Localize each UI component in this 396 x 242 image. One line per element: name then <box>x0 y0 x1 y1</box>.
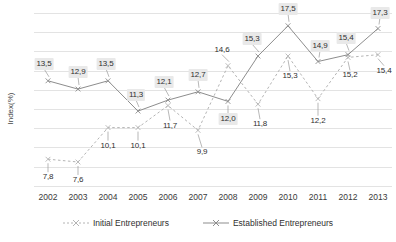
label-leader-line <box>198 134 202 147</box>
label-leader-line <box>252 44 259 52</box>
label-leader-line <box>379 18 380 25</box>
data-point-marker <box>136 109 141 114</box>
label-leader-line <box>258 108 260 119</box>
data-label: 12,1 <box>155 76 174 88</box>
label-leader-line <box>164 87 169 96</box>
data-point-marker <box>376 26 381 31</box>
x-axis-tick-2009: 2009 <box>249 192 268 202</box>
x-axis-tick-2003: 2003 <box>69 192 88 202</box>
label-leader-line <box>288 14 289 22</box>
line-chart: Index(%) 7,87,610,110,111,79,914,611,815… <box>0 0 396 242</box>
data-point-marker <box>286 54 291 59</box>
label-leader-line <box>222 55 229 62</box>
label-leader-line <box>168 110 170 121</box>
label-leader-line <box>78 77 79 85</box>
data-label: 17,3 <box>371 7 390 19</box>
data-point-marker <box>226 63 231 68</box>
label-leader-line <box>44 69 49 77</box>
data-label: 7,6 <box>73 175 84 185</box>
y-axis-title: Index(%) <box>6 77 15 141</box>
data-label: 17,5 <box>279 3 298 15</box>
data-point-marker <box>166 103 171 108</box>
label-leader-line <box>319 51 320 58</box>
label-leader-line <box>348 61 350 70</box>
legend-label-established-entrepreneurs: Established Entrepreneurs <box>233 218 333 228</box>
x-axis-tick-2012: 2012 <box>339 192 358 202</box>
x-axis-tick-2004: 2004 <box>99 192 118 202</box>
data-label: 11,3 <box>127 89 145 101</box>
legend-marker-dotted-icon <box>63 218 89 228</box>
data-label: 15,3 <box>243 33 262 45</box>
data-label: 15,2 <box>343 70 358 80</box>
label-leader-line <box>346 43 349 51</box>
data-label: 11,8 <box>253 119 267 129</box>
data-label: 12,2 <box>311 116 326 126</box>
x-axis-tick-2008: 2008 <box>219 192 238 202</box>
data-point-marker <box>136 125 141 130</box>
data-point-marker <box>226 99 231 104</box>
label-leader-line <box>106 69 109 77</box>
data-label: 12,9 <box>69 66 88 78</box>
data-label: 15,4 <box>337 32 356 44</box>
legend-item-established-entrepreneurs[interactable]: Established Entrepreneurs <box>203 218 333 228</box>
data-label: 15,3 <box>283 71 298 81</box>
chart-legend: Initial Entrepreneurs Established Entrep… <box>0 218 396 228</box>
data-point-marker <box>256 54 261 59</box>
x-axis-tick-2005: 2005 <box>129 192 148 202</box>
data-label: 7,8 <box>43 172 54 182</box>
legend-item-initial-entrepreneurs[interactable]: Initial Entrepreneurs <box>63 218 169 228</box>
data-point-marker <box>196 128 201 133</box>
data-label: 12,0 <box>219 113 238 125</box>
data-label: 14,6 <box>215 45 230 55</box>
label-leader-line <box>378 59 384 66</box>
x-axis-tick-2006: 2006 <box>159 192 178 202</box>
data-label: 9,9 <box>197 147 208 157</box>
x-axis-tick-2011: 2011 <box>309 192 327 202</box>
series-lines <box>34 0 392 190</box>
data-label: 10,1 <box>131 141 146 151</box>
legend-label-initial-entrepreneurs: Initial Entrepreneurs <box>93 218 169 228</box>
x-axis-tick-2010: 2010 <box>279 192 298 202</box>
label-leader-line <box>288 60 290 71</box>
plot-area: 7,87,610,110,111,79,914,611,815,312,215,… <box>34 0 392 190</box>
data-label: 11,7 <box>163 121 177 131</box>
x-axis-tick-2007: 2007 <box>189 192 208 202</box>
data-label: 10,1 <box>101 141 116 151</box>
data-point-marker <box>76 160 81 165</box>
label-leader-line <box>198 80 199 88</box>
data-label: 13,5 <box>97 58 116 70</box>
series-line-initial-entrepreneurs <box>48 55 378 162</box>
data-point-marker <box>256 102 261 107</box>
x-axis-tick-2002: 2002 <box>39 192 58 202</box>
data-label: 12,7 <box>189 69 208 81</box>
legend-marker-solid-icon <box>203 218 229 228</box>
data-label: 15,4 <box>377 66 392 76</box>
x-axis-tick-2013: 2013 <box>369 192 388 202</box>
data-label: 13,5 <box>35 58 54 70</box>
x-axis: 2002200320042005200620072008200920102011… <box>34 192 392 208</box>
data-point-marker <box>286 23 291 28</box>
data-label: 14,9 <box>311 40 330 52</box>
data-point-marker <box>316 96 321 101</box>
label-leader-line <box>136 100 139 107</box>
